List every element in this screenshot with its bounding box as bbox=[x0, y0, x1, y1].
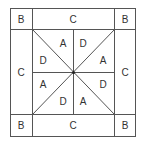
border-label-bottom: C bbox=[69, 120, 76, 131]
corner-label-bottom-left: B bbox=[18, 120, 25, 131]
corner-label-top-right: B bbox=[122, 14, 129, 25]
triangle-label: D bbox=[99, 79, 106, 90]
triangle-label: D bbox=[59, 96, 66, 107]
border-label-top: C bbox=[69, 14, 76, 25]
triangle-label: A bbox=[40, 79, 47, 90]
border-label-right: C bbox=[121, 67, 128, 78]
triangle-label: A bbox=[100, 55, 107, 66]
center-dot bbox=[72, 71, 75, 74]
quilt-block-diagram: B B B B C C C C A D D A A D D A bbox=[0, 0, 145, 144]
triangle-label: D bbox=[79, 38, 86, 49]
triangle-label: D bbox=[39, 55, 46, 66]
border-label-left: C bbox=[17, 67, 24, 78]
triangle-label: A bbox=[60, 38, 67, 49]
corner-label-top-left: B bbox=[18, 14, 25, 25]
triangle-label: A bbox=[80, 96, 87, 107]
corner-label-bottom-right: B bbox=[122, 120, 129, 131]
